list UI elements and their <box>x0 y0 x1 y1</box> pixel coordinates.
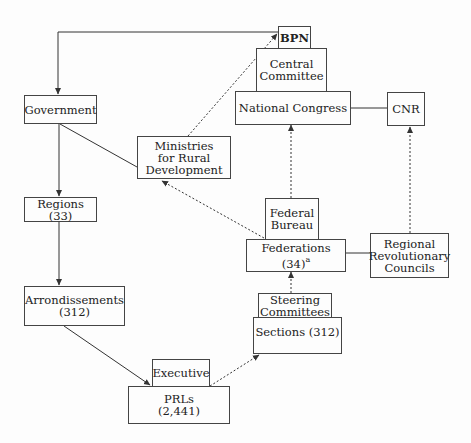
node-label: National Congress <box>239 102 347 114</box>
edge-prls-sections <box>210 355 259 386</box>
node-regions: Regions (33) <box>24 197 97 222</box>
node-label: BPN <box>280 32 309 44</box>
edge-bpn-government <box>58 32 278 94</box>
node-federal-bureau: Federal Bureau <box>265 198 319 240</box>
edge-federations-ministries <box>162 181 264 238</box>
node-regional-councils: Regional Revolutionary Councils <box>370 233 449 278</box>
node-sections: Sections (312) <box>253 317 342 354</box>
node-label: Federal Bureau <box>270 207 314 231</box>
node-ministries: Ministries for Rural Development <box>137 136 231 179</box>
node-label: Sections (312) <box>255 326 339 338</box>
node-national-congress: National Congress <box>235 91 351 125</box>
node-label: Federations (34)a <box>247 242 345 270</box>
node-label: Government <box>24 104 96 116</box>
edge-arrondissements-prls <box>64 326 150 385</box>
node-label: Regions (33) <box>25 198 96 222</box>
node-arrondissements: Arrondissements (312) <box>24 286 125 326</box>
node-label: Ministries for Rural Development <box>145 140 222 176</box>
node-bpn: BPN <box>278 26 311 49</box>
node-label: Regional Revolutionary Councils <box>369 238 450 274</box>
node-label: CNR <box>392 103 420 115</box>
node-label: Executive <box>152 367 209 379</box>
node-steering-committees: Steering Committees <box>258 293 332 318</box>
node-government: Government <box>24 95 97 124</box>
node-label: Steering Committees <box>260 294 330 318</box>
node-label: PRLs (2,441) <box>158 393 200 417</box>
edge-government-ministries <box>60 124 137 167</box>
node-label: Central Committee <box>259 58 323 82</box>
node-executive: Executive <box>152 359 210 387</box>
footnote-marker: a <box>305 255 310 264</box>
node-label: Arrondissements (312) <box>25 294 124 318</box>
node-cnr: CNR <box>387 92 425 126</box>
node-central-committee: Central Committee <box>256 48 327 92</box>
node-prls: PRLs (2,441) <box>128 386 230 424</box>
node-federations: Federations (34)a <box>246 239 346 272</box>
